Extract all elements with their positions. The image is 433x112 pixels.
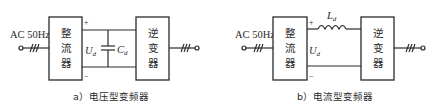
capacitor-label: Cd — [117, 44, 128, 57]
caption-b: b）电流型变频器 — [297, 91, 373, 102]
minus-sign: − — [309, 72, 314, 81]
inverter-label-3: 器 — [373, 57, 384, 69]
rectifier-label-3: 器 — [61, 57, 72, 69]
input-terminal-icon — [242, 46, 246, 50]
inverter-label-2: 变 — [373, 42, 384, 54]
inductor-label: Ld — [326, 10, 337, 23]
output-terminal-icon — [421, 46, 425, 50]
capacitor-icon — [101, 30, 115, 67]
plus-sign: + — [84, 18, 89, 27]
diagram-voltage-type: AC 50Hz 整 流 器 + − Ud Cd 逆 变 器 — [10, 17, 199, 102]
dc-voltage-label: Ud — [309, 45, 321, 58]
inverter-label-1: 逆 — [148, 27, 159, 39]
input-label: AC 50Hz — [10, 29, 50, 40]
three-phase-mark-icon — [254, 44, 263, 52]
plus-sign: + — [309, 18, 314, 27]
rectifier-label-1: 整 — [61, 27, 72, 39]
inverter-label-2: 变 — [148, 42, 159, 54]
caption-a: a）电压型变频器 — [73, 91, 149, 102]
three-phase-mark-icon — [406, 44, 415, 52]
input-terminal-icon — [19, 46, 23, 50]
three-phase-mark-icon — [181, 44, 190, 52]
input-label: AC 50Hz — [235, 29, 275, 40]
converter-diagrams: AC 50Hz 整 流 器 + − Ud Cd 逆 变 器 — [0, 0, 433, 112]
output-terminal-icon — [195, 46, 199, 50]
rectifier-label-3: 器 — [285, 57, 296, 69]
rectifier-label-2: 流 — [61, 42, 72, 54]
dc-voltage-label: Ud — [85, 45, 97, 58]
inverter-label-1: 逆 — [373, 27, 384, 39]
three-phase-mark-icon — [30, 44, 39, 52]
rectifier-label-2: 流 — [285, 42, 296, 54]
minus-sign: − — [84, 72, 89, 81]
diagram-current-type: AC 50Hz 整 流 器 + − Ld Ud 逆 变 器 b） — [235, 10, 425, 102]
inverter-label-3: 器 — [148, 57, 159, 69]
inductor-icon — [318, 26, 346, 30]
rectifier-label-1: 整 — [285, 27, 296, 39]
